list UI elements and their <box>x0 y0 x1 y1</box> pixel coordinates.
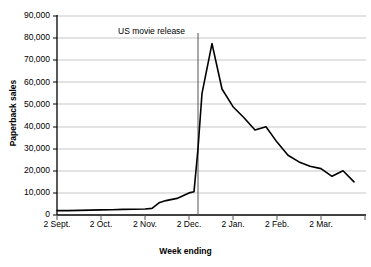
x-tick-label: 2 Nov. <box>133 219 157 229</box>
x-tick-label: 2 Oct. <box>90 219 113 229</box>
x-tick-label: 2 Sept. <box>44 219 71 229</box>
x-axis-title: Week ending <box>0 246 371 256</box>
chart-container: Paperback sales 90,000 80,000 70,000 60,… <box>0 0 371 267</box>
x-tick-label: 2 Dec. <box>177 219 202 229</box>
gridlines <box>57 16 366 193</box>
x-tick-label: 2 Jan. <box>221 219 244 229</box>
annotation-label-us-movie-release: US movie release <box>118 26 185 36</box>
x-tick-label: 2 Mar. <box>309 219 333 229</box>
x-tick-label: 2 Feb. <box>265 219 289 229</box>
